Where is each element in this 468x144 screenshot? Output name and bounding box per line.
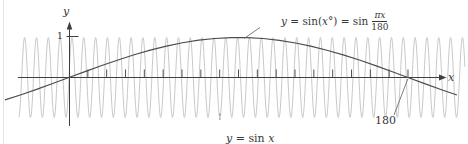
x-axis-arrow-icon — [439, 75, 447, 81]
y-axis-label: y — [63, 6, 69, 17]
sin-degrees-equation-label: y = sin(x°) = sin πx 180 — [261, 7, 389, 35]
x-axis-ticks — [88, 70, 408, 78]
top-label-leader-line — [244, 28, 260, 39]
fraction: πx 180 — [371, 11, 388, 32]
sin-x-equation-label: y = sin x — [212, 122, 274, 144]
fraction-denominator: 180 — [371, 22, 388, 32]
fraction-numerator: πx — [372, 11, 387, 22]
x-axis-label: x — [448, 72, 454, 83]
eq-top-eq-sin: = sin( — [287, 15, 322, 27]
intercept-leader-line — [394, 79, 408, 115]
eq-top-deg: °) = sin — [328, 15, 368, 27]
x-intercept-label: 180 — [375, 115, 396, 126]
y-axis-arrow-icon — [67, 22, 73, 30]
eq-bottom-x: x — [268, 132, 274, 144]
trig-degree-vs-radian-figure: y x 1 y = sin(x°) = sin πx 180 y = sin x… — [0, 0, 468, 144]
eq-bottom-eq-sin: = sin — [232, 132, 268, 144]
y-tick-1-label: 1 — [56, 31, 64, 41]
